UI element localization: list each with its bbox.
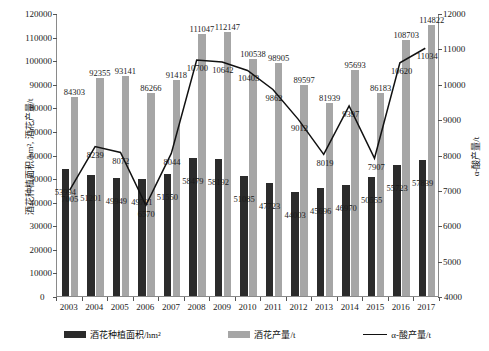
x-tickmark <box>413 297 414 301</box>
x-tickmark <box>286 297 287 301</box>
y-tickmark-right <box>438 120 442 121</box>
x-tick-2017: 2017 <box>417 302 435 312</box>
data-label-area-2017: 57839 <box>412 178 433 188</box>
legend-swatch-area-icon <box>64 331 86 338</box>
x-tick-2005: 2005 <box>111 302 129 312</box>
data-label-yield-2003: 84303 <box>64 87 85 97</box>
data-label-area-2014: 46970 <box>336 203 357 213</box>
data-label-alpha-2012: 9012 <box>291 123 308 133</box>
x-tick-2015: 2015 <box>366 302 384 312</box>
y-tickmark-right <box>438 49 442 50</box>
data-label-area-2008: 58479 <box>182 176 203 186</box>
x-tick-2006: 2006 <box>136 302 154 312</box>
y-tick-left-30000: 30000 <box>30 221 53 231</box>
x-tick-2003: 2003 <box>60 302 78 312</box>
y-tick-right-6000: 6000 <box>443 221 461 231</box>
y-tick-right-7000: 7000 <box>443 186 461 196</box>
legend-item-yield: 酒花产量/t <box>228 328 295 341</box>
y-tick-left-100000: 100000 <box>25 56 52 66</box>
x-tickmark <box>260 297 261 301</box>
data-label-yield-2007: 91418 <box>166 70 187 80</box>
x-tickmark <box>209 297 210 301</box>
y-tickmark-right <box>438 191 442 192</box>
data-label-yield-2012: 89597 <box>293 75 314 85</box>
legend-swatch-line-icon <box>363 334 387 335</box>
plot-inner: 1000020000300004000050000600007000080000… <box>57 14 438 296</box>
data-label-alpha-2008: 10700 <box>187 63 208 73</box>
data-label-alpha-2010: 10403 <box>238 73 259 83</box>
x-tickmark <box>107 297 108 301</box>
x-tickmark <box>235 297 236 301</box>
y-axis-right-base-label: 4000 <box>444 292 462 302</box>
plot-area: 1000020000300004000050000600007000080000… <box>56 14 439 297</box>
x-tick-2014: 2014 <box>341 302 359 312</box>
data-label-yield-2005: 93141 <box>115 66 136 76</box>
x-tick-2009: 2009 <box>213 302 231 312</box>
y-tick-left-80000: 80000 <box>30 103 53 113</box>
chart-root: 酒花种植面积/hm², 酒花产量/t α-酸产量/t 0 4000 100002… <box>0 0 489 351</box>
data-label-yield-2009: 112147 <box>215 22 240 32</box>
x-tick-2004: 2004 <box>85 302 103 312</box>
y-tick-left-60000: 60000 <box>30 151 53 161</box>
data-label-area-2010: 51085 <box>233 194 254 204</box>
y-tick-left-110000: 110000 <box>25 33 52 43</box>
data-label-alpha-2009: 10642 <box>212 65 233 75</box>
data-label-alpha-2004: 8239 <box>87 150 104 160</box>
data-label-alpha-2011: 9862 <box>266 93 283 103</box>
x-tick-2007: 2007 <box>162 302 180 312</box>
y-tick-left-120000: 120000 <box>25 9 52 19</box>
data-label-yield-2016: 108703 <box>393 30 419 40</box>
y-tick-right-5000: 5000 <box>443 257 461 267</box>
data-label-yield-2011: 98905 <box>268 53 289 63</box>
y-tickmark-right <box>438 262 442 263</box>
x-tickmark <box>362 297 363 301</box>
y-axis-left-zero-label: 0 <box>40 292 45 302</box>
y-tickmark-right <box>438 226 442 227</box>
y-tick-left-50000: 50000 <box>30 174 53 184</box>
data-label-area-2011: 47723 <box>259 201 280 211</box>
y-tick-left-70000: 70000 <box>30 127 53 137</box>
data-label-yield-2010: 100538 <box>240 49 266 59</box>
data-label-alpha-2013: 8019 <box>317 158 334 168</box>
y-tick-right-11000: 11000 <box>443 44 465 54</box>
y-tickmark-right <box>438 156 442 157</box>
y-tick-left-10000: 10000 <box>30 268 53 278</box>
x-tickmark <box>439 297 440 301</box>
data-label-area-2016: 55723 <box>387 183 408 193</box>
legend-swatch-yield-icon <box>228 331 250 338</box>
data-label-area-2006: 49721 <box>131 197 152 207</box>
legend-label-alpha-acid: α-酸产量/t <box>391 328 431 341</box>
data-label-yield-2015: 86183 <box>370 83 391 93</box>
data-label-alpha-2003: 7005 <box>61 194 78 204</box>
x-tick-2008: 2008 <box>187 302 205 312</box>
x-tickmark <box>337 297 338 301</box>
data-label-yield-2013: 81939 <box>319 93 340 103</box>
x-tick-2012: 2012 <box>290 302 308 312</box>
x-tick-2013: 2013 <box>315 302 333 312</box>
x-tickmark <box>158 297 159 301</box>
data-label-area-2005: 49949 <box>106 196 127 206</box>
data-label-alpha-2006: 6570 <box>138 209 155 219</box>
data-label-area-2004: 51201 <box>80 193 101 203</box>
data-label-alpha-2014: 9397 <box>342 109 359 119</box>
x-tick-2016: 2016 <box>392 302 410 312</box>
data-label-alpha-2015: 7907 <box>368 162 385 172</box>
x-tickmark <box>133 297 134 301</box>
y-tick-right-8000: 8000 <box>443 151 461 161</box>
data-label-alpha-2017: 11034 <box>417 51 438 61</box>
data-label-area-2012: 44003 <box>284 210 305 220</box>
data-label-alpha-2016: 10620 <box>391 66 412 76</box>
x-tick-2010: 2010 <box>239 302 257 312</box>
x-tickmark <box>56 297 57 301</box>
data-label-alpha-2007: 8044 <box>163 157 180 167</box>
y-tick-left-40000: 40000 <box>30 198 53 208</box>
legend-item-area: 酒花种植面积/hm² <box>64 328 161 341</box>
y-tick-right-10000: 10000 <box>443 80 466 90</box>
data-label-yield-2014: 95693 <box>345 60 366 70</box>
x-tickmark <box>82 297 83 301</box>
data-label-yield-2004: 92355 <box>89 68 110 78</box>
legend-label-yield: 酒花产量/t <box>254 328 295 341</box>
legend-item-alpha-acid: α-酸产量/t <box>363 328 431 341</box>
data-label-area-2009: 58192 <box>208 177 229 187</box>
x-tickmark <box>311 297 312 301</box>
